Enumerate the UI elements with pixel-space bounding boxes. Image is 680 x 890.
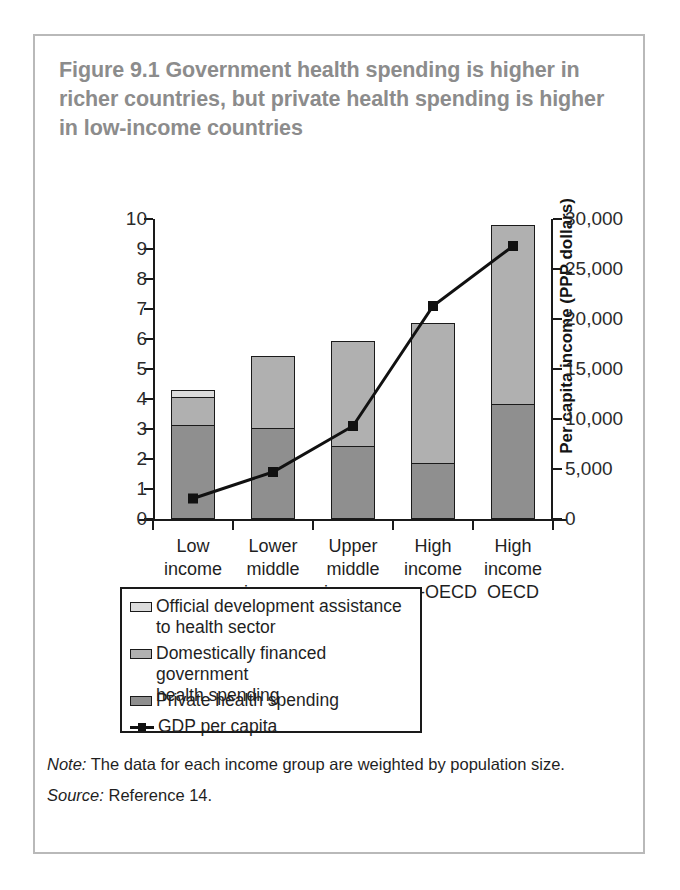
y-axis-right-tick-label: 30,000 [565,208,623,230]
private-swatch-icon [130,696,152,706]
note-line: Note: The data for each income group are… [47,754,627,774]
x-axis-category-label: High income OECD [455,535,571,604]
y-axis-left-tick-label: 7 [136,298,147,320]
y-axis-right-tick-label: 20,000 [565,308,623,330]
y-axis-left-tick-label: 9 [136,238,147,260]
figure-footer: Note: The data for each income group are… [47,754,627,816]
y-axis-left-tick-label: 2 [136,448,147,470]
figure-title: Figure 9.1 Government health spending is… [59,56,607,143]
figure-container: Figure 9.1 Government health spending is… [33,34,645,854]
y-axis-right-tick [553,418,562,420]
source-line: Source: Reference 14. [47,785,627,805]
y-axis-right-tick [553,218,562,220]
gdp-data-point [428,301,438,311]
gdp-data-point [348,421,358,431]
y-axis-right-tick-label: 0 [565,508,576,530]
y-axis-left-tick-label: 8 [136,268,147,290]
y-axis-right-tick [553,468,562,470]
y-axis-left-tick-label: 1 [136,478,147,500]
gdp-line-series [153,219,553,521]
y-axis-left-tick-label: 3 [136,418,147,440]
y-axis-left-tick-label: 6 [136,328,147,350]
government-swatch-icon [130,649,152,659]
note-text: The data for each income group are weigh… [86,755,565,773]
x-axis-tick [152,521,154,530]
x-axis-tick [472,521,474,530]
note-label: Note: [47,755,86,773]
gdp-data-point [268,467,278,477]
legend-item[interactable]: GDP per capita [130,716,277,737]
y-axis-right-tick-label: 25,000 [565,258,623,280]
legend-item[interactable]: Official development assistance to healt… [130,596,402,638]
legend-item-label: Official development assistance to healt… [156,596,402,638]
y-axis-left-tick-label: 0 [136,508,147,530]
x-axis-tick [312,521,314,530]
y-axis-right-tick [553,318,562,320]
gdp-data-point [188,494,198,504]
chart-legend: Official development assistance to healt… [120,587,422,733]
x-axis-tick [392,521,394,530]
y-axis-left-tick-label: 10 [126,208,147,230]
y-axis-right-tick-label: 5,000 [565,458,613,480]
chart-area: Share of GDP (%) Per capita income (PPP … [35,176,643,616]
y-axis-right-tick-label: 15,000 [565,358,623,380]
legend-item-label: GDP per capita [158,716,277,737]
y-axis-left-tick-label: 5 [136,358,147,380]
y-axis-right-tick-label: 10,000 [565,408,623,430]
source-text: Reference 14. [104,786,212,804]
legend-item[interactable]: Private health spending [130,690,339,711]
gdp-data-point [508,241,518,251]
y-axis-left-tick-label: 4 [136,388,147,410]
legend-item-label: Private health spending [156,690,339,711]
y-axis-right-tick [553,518,562,520]
plot-area: 012345678910 05,00010,00015,00020,00025,… [153,219,553,519]
oda-swatch-icon [130,602,152,612]
y-axis-right-tick [553,368,562,370]
x-axis-tick [232,521,234,530]
source-label: Source: [47,786,104,804]
x-axis-tick [552,521,554,530]
y-axis-right-tick [553,268,562,270]
line-marker-swatch-icon [130,721,154,733]
